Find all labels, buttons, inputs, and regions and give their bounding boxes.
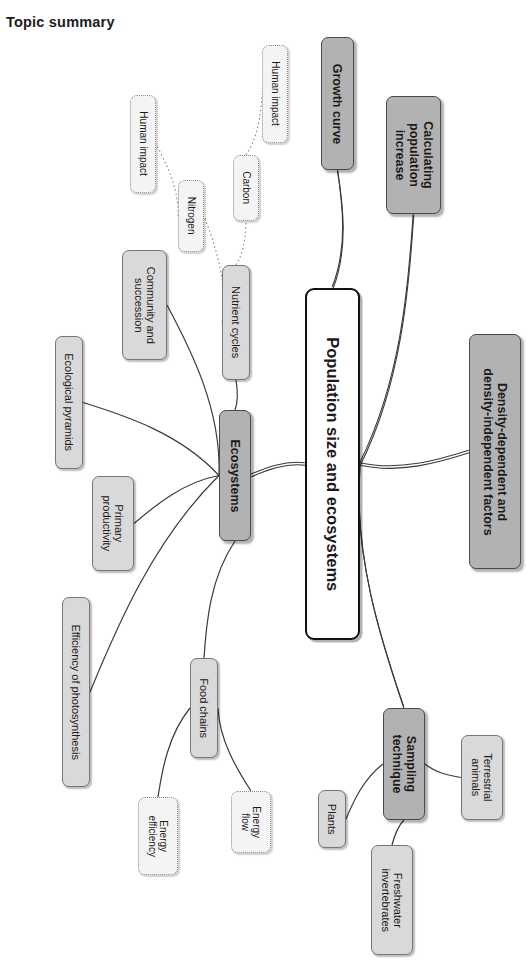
mindmap-node-ecopyramids[interactable]: Ecological pyramids: [55, 336, 83, 469]
node-label: Terrestrial animals: [470, 753, 495, 801]
mindmap-node-plants[interactable]: Plants: [318, 790, 346, 848]
node-label: Primary productivity: [101, 496, 126, 552]
node-label: Growth curve: [331, 63, 345, 144]
connector-ecosystems-primprod: [134, 476, 219, 524]
node-label: Human impact: [269, 62, 280, 126]
node-label: Carbon: [240, 172, 251, 205]
node-label: Ecological pyramids: [63, 354, 75, 452]
node-label: Energy flow: [240, 803, 262, 841]
connector-root-sampling: [359, 465, 404, 709]
mindmap-node-human2[interactable]: Human impact: [262, 45, 288, 143]
connector-root-growth: [332, 169, 342, 287]
mindmap-node-community[interactable]: Community and succession: [122, 250, 167, 360]
connector-sampling-plants: [346, 764, 383, 819]
mindmap-node-ecosystems[interactable]: Ecosystems: [219, 410, 251, 541]
node-label: Calculating population increase: [393, 121, 435, 188]
connector-ecosystems-ecopyramids: [83, 403, 219, 476]
node-label: Sampling technique: [390, 734, 418, 793]
mindmap-node-density[interactable]: Density-dependent and density-independen…: [469, 334, 521, 569]
node-label: Freshwater invertebrates: [380, 868, 405, 932]
mindmap-node-sampling[interactable]: Sampling technique: [383, 708, 425, 820]
mindmap-node-primprod[interactable]: Primary productivity: [92, 476, 134, 571]
node-label: Community and succession: [132, 266, 157, 343]
mindmap-node-calc[interactable]: Calculating population increase: [386, 96, 441, 214]
node-label: Density-dependent and density-independen…: [481, 368, 509, 535]
mindmap-node-growth[interactable]: Growth curve: [321, 37, 354, 170]
connector-sampling-terrestrial: [425, 764, 461, 778]
mindmap-canvas: Population size and ecosystemsGrowth cur…: [0, 0, 527, 972]
connector-ecosystems-nutrient: [235, 380, 238, 410]
node-label: Nutrient cycles: [230, 286, 242, 358]
connector-root-ecosystems: [251, 462, 305, 474]
connector-nutrient-nitrogen: [204, 216, 224, 323]
node-label: Human impact: [137, 112, 148, 176]
node-label: Nitrogen: [185, 197, 196, 235]
node-label: Efficiency of photosynthesis: [70, 624, 82, 760]
connector-nitrogen-human1: [156, 144, 178, 216]
connector-root-calc: [360, 213, 414, 463]
connector-foodchains-energyeff: [158, 708, 190, 797]
node-label: Food chains: [198, 678, 210, 738]
mindmap-node-nitrogen[interactable]: Nitrogen: [178, 180, 204, 252]
connector-root-growth: [333, 171, 343, 289]
connector-nutrient-carbon: [236, 221, 246, 265]
connector-sampling-freshwater: [392, 820, 404, 845]
connector-root-calc: [360, 215, 414, 465]
node-label: Plants: [326, 804, 338, 835]
mindmap-node-energyeff[interactable]: Energy efficiency: [138, 797, 178, 875]
mindmap-node-terrestrial[interactable]: Terrestrial animals: [461, 735, 503, 820]
connector-carbon-human2: [246, 94, 262, 155]
mindmap-node-carbon[interactable]: Carbon: [233, 155, 259, 221]
mindmap-node-effphoto[interactable]: Efficiency of photosynthesis: [62, 597, 90, 787]
node-label: Ecosystems: [228, 439, 242, 512]
mindmap-node-freshwater[interactable]: Freshwater invertebrates: [371, 845, 413, 955]
node-label: Energy efficiency: [147, 815, 169, 857]
mindmap-node-nutrient[interactable]: Nutrient cycles: [222, 265, 250, 380]
node-label: Population size and ecosystems: [323, 337, 341, 591]
mindmap-node-human1[interactable]: Human impact: [130, 95, 156, 193]
mindmap-node-energyflow[interactable]: Energy flow: [231, 791, 271, 853]
connector-ecosystems-community: [167, 305, 219, 476]
connector-foodchains-energyflow: [218, 708, 251, 791]
mindmap-node-foodchains[interactable]: Food chains: [190, 658, 218, 758]
mindmap-node-root[interactable]: Population size and ecosystems: [305, 288, 360, 640]
connector-ecosystems-foodchains: [204, 541, 235, 658]
connector-root-sampling: [359, 463, 404, 707]
